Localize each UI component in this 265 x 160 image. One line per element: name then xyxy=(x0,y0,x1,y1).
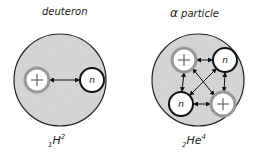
deuteron-title: deuteron xyxy=(42,6,87,17)
alpha-formula: 2He4 xyxy=(182,133,206,149)
proton xyxy=(172,48,196,72)
neutron: n xyxy=(169,92,193,116)
svg-text:n: n xyxy=(89,75,95,85)
proton xyxy=(211,92,235,116)
svg-text:n: n xyxy=(178,99,184,109)
nucleus-diagram: n n n xyxy=(0,0,265,160)
alpha-nucleus: n n xyxy=(152,34,244,126)
deuteron-formula: 1H2 xyxy=(48,133,65,149)
alpha-symbol: α xyxy=(170,6,178,20)
mass-number: 2 xyxy=(61,133,65,141)
neutron: n xyxy=(80,68,104,92)
proton xyxy=(25,68,49,92)
neutron: n xyxy=(213,48,237,72)
svg-text:n: n xyxy=(222,55,228,65)
element-symbol: He xyxy=(186,134,201,147)
alpha-title-text: particle xyxy=(178,8,219,19)
element-symbol: H xyxy=(52,134,60,147)
mass-number: 4 xyxy=(202,133,206,141)
alpha-title: α particle xyxy=(170,6,219,20)
deuteron-nucleus: n xyxy=(14,34,106,126)
